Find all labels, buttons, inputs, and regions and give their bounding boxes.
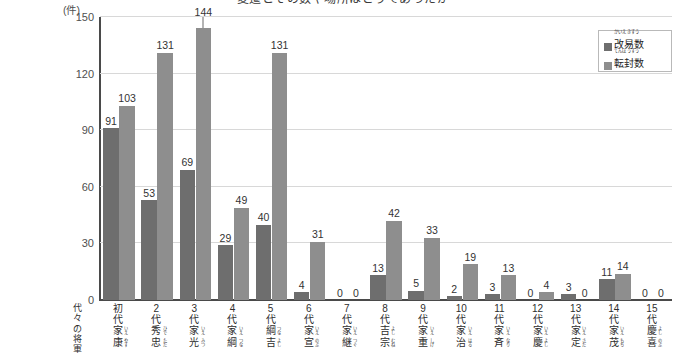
bar-kaieki: 5 xyxy=(408,291,424,300)
bar-value-label: 33 xyxy=(426,225,438,236)
x-axis-category-label: 初代家いえ康やす xyxy=(99,303,137,348)
bar-value-label: 42 xyxy=(388,208,400,219)
bar-value-label: 31 xyxy=(312,229,324,240)
bar-value-label: 14 xyxy=(617,261,629,272)
bar-kaieki: 2 xyxy=(447,296,463,300)
y-axis-tick-label: 90 xyxy=(82,124,94,136)
bar-value-label: 2 xyxy=(451,284,457,295)
ruby-text: つぐ xyxy=(352,338,356,346)
bar-tenpo: 31 xyxy=(310,242,326,300)
shogun-name: 秀ひで忠ただ xyxy=(137,325,175,347)
x-axis-category-label: 3代家いえ光みつ xyxy=(175,303,213,348)
axis-name-char: 将 xyxy=(73,334,82,344)
bar-value-label: 11 xyxy=(601,267,612,278)
shogun-generation: 15代 xyxy=(633,303,671,325)
ruby-text: もち xyxy=(619,338,623,346)
shogun-generation: 3代 xyxy=(175,303,213,325)
ruby-text: やす xyxy=(123,338,127,346)
chart-legend: かいえきすう 改易数 てんぽうすう 転封数 xyxy=(598,30,672,72)
ruby-text: いえ xyxy=(237,326,241,334)
bar-value-label: 69 xyxy=(181,157,193,168)
legend-swatch-kaieki xyxy=(604,43,612,51)
bar-group: 40131 xyxy=(253,17,291,300)
bar-tenpo: 4 xyxy=(539,292,555,300)
axis-name-char: 代 xyxy=(73,303,82,313)
x-axis-category-label: 10代家いえ治はる xyxy=(442,303,480,348)
chart-title-cropped: 変遷とその数や場所はどうであったか xyxy=(0,0,686,7)
bar-value-label: 49 xyxy=(236,195,248,206)
x-axis-labels: 初代家いえ康やす2代秀ひで忠ただ3代家いえ光みつ4代家いえ綱つな5代綱つな吉よし… xyxy=(99,303,672,360)
bar-kaieki: 53 xyxy=(141,200,157,300)
shogun-name: 家いえ重しげ xyxy=(404,325,442,347)
bar-group: 04 xyxy=(519,17,557,300)
bar-tenpo: 103 xyxy=(119,106,135,300)
bar-tenpo: 14 xyxy=(615,274,631,300)
bar-value-label: 40 xyxy=(258,212,270,223)
shogun-name: 家いえ定さだ xyxy=(557,325,595,347)
ruby-text: よし xyxy=(276,338,280,346)
ruby-text: いえ xyxy=(199,326,203,334)
bar-tenpo: 131 xyxy=(157,53,173,300)
x-axis-category-label: 2代秀ひで忠ただ xyxy=(137,303,175,348)
bar-group: 431 xyxy=(291,17,329,300)
bar-tenpo: 42 xyxy=(386,221,402,300)
x-axis-category-label: 7代家いえ継つぐ xyxy=(328,303,366,348)
bar-value-label: 0 xyxy=(582,288,588,299)
ruby-text: よし xyxy=(657,326,661,334)
bar-group: 2949 xyxy=(214,17,252,300)
x-axis-category-label: 5代綱つな吉よし xyxy=(252,303,290,348)
bar-value-label: 13 xyxy=(503,263,515,274)
shogun-generation: 9代 xyxy=(404,303,442,325)
ruby-text: のぶ xyxy=(314,338,318,346)
ruby-text: いえ xyxy=(619,326,623,334)
bar-group: 219 xyxy=(443,17,481,300)
bar-group: 91103 xyxy=(100,17,138,300)
x-axis-category-label: 6代家いえ宣のぶ xyxy=(290,303,328,348)
shogun-name: 家いえ治はる xyxy=(442,325,480,347)
bar-value-label: 91 xyxy=(105,116,117,127)
bar-chart: 変遷とその数や場所はどうであったか (件) 030609012015091103… xyxy=(0,0,686,360)
x-axis-category-label: 8代吉よし宗むね xyxy=(366,303,404,348)
shogun-generation: 初代 xyxy=(99,303,137,325)
ruby-text: ただ xyxy=(161,338,165,346)
shogun-generation: 14代 xyxy=(595,303,633,325)
shogun-name: 家いえ継つぐ xyxy=(328,325,366,347)
bar-kaieki: 29 xyxy=(218,245,234,300)
bar-value-label: 131 xyxy=(271,40,289,51)
bar-value-label: 19 xyxy=(464,252,476,263)
bar-group: 313 xyxy=(481,17,519,300)
shogun-generation: 13代 xyxy=(557,303,595,325)
shogun-name: 綱つな吉よし xyxy=(252,325,290,347)
shogun-name: 家いえ康やす xyxy=(99,325,137,347)
bar-value-label: 5 xyxy=(413,278,419,289)
y-axis-tick-label: 150 xyxy=(76,11,94,23)
shogun-generation: 12代 xyxy=(518,303,556,325)
ruby-text: いえ xyxy=(428,326,432,334)
axis-name-char: 軍 xyxy=(73,344,82,354)
bar-value-label: 103 xyxy=(118,93,136,104)
axis-name-char: 々 xyxy=(73,313,82,323)
ruby-text: つな xyxy=(276,326,280,334)
shogun-generation: 5代 xyxy=(252,303,290,325)
bar-kaieki: 13 xyxy=(370,275,386,300)
ruby-text: なり xyxy=(504,338,508,346)
legend-swatch-tenpo xyxy=(604,62,612,70)
bar-value-label: 0 xyxy=(353,288,359,299)
ruby-text: みつ xyxy=(199,338,203,346)
ruby-text: いえ xyxy=(504,326,508,334)
bar-group: 69144 xyxy=(176,17,214,300)
shogun-generation: 8代 xyxy=(366,303,404,325)
bar-kaieki: 11 xyxy=(599,279,615,300)
legend-ruby-tenpo: てんぽうすう xyxy=(614,49,639,53)
x-axis-category-label: 9代家いえ重しげ xyxy=(404,303,442,348)
bar-tenpo: 131 xyxy=(272,53,288,300)
shogun-generation: 4代 xyxy=(213,303,251,325)
bar-group: 53131 xyxy=(138,17,176,300)
bar-value-label: 3 xyxy=(566,282,572,293)
bar-value-label: 53 xyxy=(143,188,155,199)
bar-value-label: 4 xyxy=(544,280,550,291)
ruby-text: ひで xyxy=(161,326,165,334)
bar-tenpo: 19 xyxy=(463,264,479,300)
legend-item-tenpo: てんぽうすう 転封数 xyxy=(604,54,666,70)
x-axis-category-label: 11代家いえ斉なり xyxy=(480,303,518,348)
